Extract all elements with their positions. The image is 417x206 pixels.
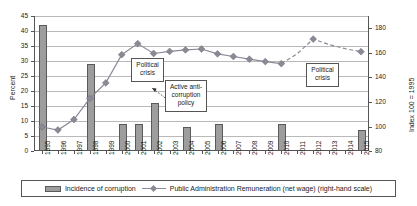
legend-item-bar: Incidence of corruption (45, 185, 136, 192)
x-tickmark (186, 151, 187, 154)
chart-figure: Percent Index 100 = 1995 051015202530354… (0, 0, 417, 206)
y-tick-right-120: 120 (375, 99, 399, 106)
y-tick-right-100: 100 (375, 124, 399, 131)
x-tickmark (233, 151, 234, 154)
bar-1995 (39, 25, 47, 151)
legend-bar-label: Incidence of corruption (65, 185, 136, 192)
y-axis-right-title: Index 100 = 1995 (408, 78, 415, 132)
x-tick-2000: 2000 (125, 141, 132, 155)
x-tickmark (297, 151, 298, 154)
x-tick-2009: 2009 (268, 141, 275, 155)
annotation-line-3: policy (168, 99, 204, 107)
gridline (35, 61, 368, 62)
y-tick-left-15: 15 (6, 103, 28, 110)
y-tickmark-left (31, 106, 34, 107)
gridline (35, 46, 368, 47)
y-tick-left-25: 25 (6, 73, 28, 80)
y-tickmark-left (31, 136, 34, 137)
y-tick-right-180: 180 (375, 25, 399, 32)
x-tickmark (154, 151, 155, 154)
gridline (35, 121, 368, 122)
y-tick-left-40: 40 (6, 28, 28, 35)
x-tickmark (265, 151, 266, 154)
x-tick-2012: 2012 (316, 141, 323, 155)
y-tickmark-left (31, 16, 34, 17)
y-tickmark-left (31, 121, 34, 122)
y-tickmark-right (369, 53, 372, 54)
x-tickmark (90, 151, 91, 154)
x-tickmark (74, 151, 75, 154)
x-tickmark (345, 151, 346, 154)
x-tick-1997: 1997 (77, 141, 84, 155)
bar-1998 (87, 64, 95, 151)
x-tick-2007: 2007 (236, 141, 243, 155)
x-tick-2001: 2001 (141, 141, 148, 155)
gridline (35, 136, 368, 137)
y-tick-left-45: 45 (6, 13, 28, 20)
x-tick-2004: 2004 (189, 141, 196, 155)
x-tickmark (58, 151, 59, 154)
legend-bar-swatch-icon (45, 186, 61, 192)
y-tick-right-140: 140 (375, 74, 399, 81)
x-tick-1998: 1998 (93, 141, 100, 155)
annotation-line-1: Political (309, 66, 336, 74)
x-tick-2013: 2013 (332, 141, 339, 155)
annotation-political-crisis-2: Political crisis (306, 63, 339, 87)
x-tickmark (106, 151, 107, 154)
y-tickmark-left (31, 76, 34, 77)
y-tick-left-20: 20 (6, 88, 28, 95)
x-tickmark (361, 151, 362, 154)
y-tickmark-left (31, 46, 34, 47)
annotation-line-2: corruption (168, 91, 204, 99)
y-tick-right-160: 160 (375, 50, 399, 57)
x-tickmark (281, 151, 282, 154)
x-tick-1996: 1996 (61, 141, 68, 155)
annotation-line-2: crisis (134, 69, 161, 77)
x-tickmark (202, 151, 203, 154)
y-tickmark-left (31, 31, 34, 32)
x-tickmark (122, 151, 123, 154)
x-tickmark (170, 151, 171, 154)
x-tickmark (313, 151, 314, 154)
x-tick-2006: 2006 (221, 141, 228, 155)
x-tick-2010: 2010 (284, 141, 291, 155)
y-tick-left-5: 5 (6, 133, 28, 140)
x-tickmark (138, 151, 139, 154)
x-tickmark (42, 151, 43, 154)
annotation-line-2: crisis (309, 74, 336, 82)
annotation-political-crisis-1: Political crisis (131, 58, 164, 82)
y-tick-left-30: 30 (6, 58, 28, 65)
legend-line-label: Public Administration Remuneration (net … (170, 185, 372, 192)
x-tick-2002: 2002 (157, 141, 164, 155)
x-tickmark (329, 151, 330, 154)
y-tickmark-left (31, 91, 34, 92)
y-tick-left-0: 0 (6, 148, 28, 155)
x-tick-2005: 2005 (205, 141, 212, 155)
chart-legend: Incidence of corruption Public Administr… (21, 180, 396, 197)
x-tick-1995: 1995 (45, 141, 52, 155)
y-tickmark-right (369, 77, 372, 78)
y-tickmark-right (369, 28, 372, 29)
y-tick-right-80: 80 (375, 148, 399, 155)
y-tickmark-left (31, 151, 34, 152)
x-tick-2011: 2011 (300, 141, 307, 155)
x-tickmark (218, 151, 219, 154)
y-tickmark-right (369, 102, 372, 103)
y-tickmark-right (369, 127, 372, 128)
y-tickmark-left (31, 61, 34, 62)
y-tick-left-10: 10 (6, 118, 28, 125)
annotation-line-1: Active anti- (168, 83, 204, 91)
legend-item-line: Public Administration Remuneration (net … (142, 185, 372, 192)
gridline (35, 16, 368, 17)
x-tickmark (249, 151, 250, 154)
x-tick-1999: 1999 (109, 141, 116, 155)
annotation-active-anti-corruption-policy: Active anti- corruption policy (165, 80, 207, 112)
x-tick-2015: 2015 (364, 141, 371, 155)
annotation-line-1: Political (134, 61, 161, 69)
x-tick-2014: 2014 (348, 141, 355, 155)
y-tick-left-35: 35 (6, 43, 28, 50)
legend-line-marker-icon (142, 185, 166, 192)
x-tick-2003: 2003 (173, 141, 180, 155)
x-tick-2008: 2008 (252, 141, 259, 155)
gridline (35, 31, 368, 32)
